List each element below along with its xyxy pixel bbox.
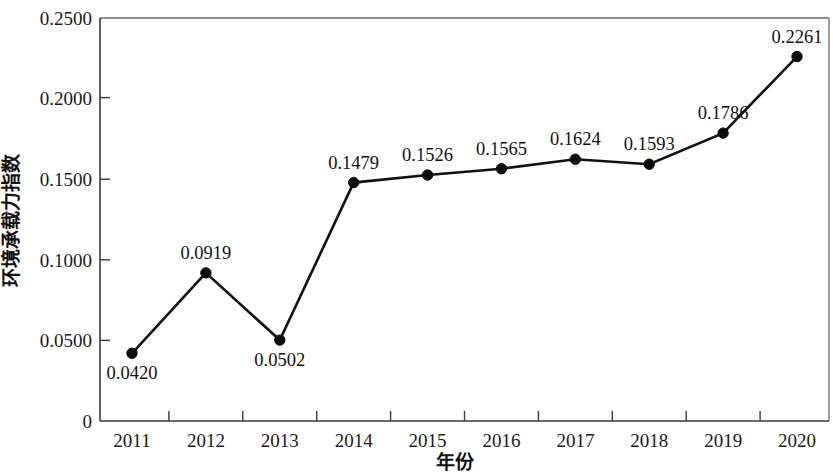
data-point-label: 0.0420 xyxy=(107,363,158,383)
data-point xyxy=(127,348,137,358)
x-tick-label: 2017 xyxy=(556,430,594,451)
data-point-label: 0.1526 xyxy=(402,145,453,165)
x-tick-label: 2019 xyxy=(704,430,742,451)
x-tick-label: 2011 xyxy=(113,430,150,451)
y-tick-label: 0.1000 xyxy=(40,250,92,271)
data-point-label: 0.1786 xyxy=(698,103,749,123)
x-tick-label: 2016 xyxy=(483,430,521,451)
x-tick-label: 2018 xyxy=(630,430,668,451)
data-point xyxy=(201,268,211,278)
x-axis-title: 年份 xyxy=(436,451,475,473)
data-point-label: 0.0502 xyxy=(254,350,305,370)
x-tick-label: 2020 xyxy=(778,430,816,451)
y-tick-label: 0.0500 xyxy=(40,330,92,351)
chart-background xyxy=(0,0,833,475)
y-tick-label: 0.2000 xyxy=(40,88,92,109)
chart-figure: 0.2500 0.2000 0.1500 0.1000 0.0500 0 201… xyxy=(0,0,833,475)
data-point xyxy=(422,170,432,180)
y-tick-label: 0 xyxy=(83,411,93,432)
y-tick-label: 0.2500 xyxy=(40,8,92,29)
x-tick-label: 2012 xyxy=(187,430,225,451)
y-tick-label: 0.1500 xyxy=(40,169,92,190)
x-tick-label: 2015 xyxy=(409,430,447,451)
data-point xyxy=(644,159,654,169)
y-axis-title: 环境承载力指数 xyxy=(0,153,22,287)
x-tick-label: 2014 xyxy=(335,430,374,451)
data-point-label: 0.1479 xyxy=(328,153,379,173)
data-point-label: 0.1593 xyxy=(624,134,675,154)
line-chart: 0.2500 0.2000 0.1500 0.1000 0.0500 0 201… xyxy=(0,0,833,475)
data-point xyxy=(792,51,802,61)
data-point xyxy=(348,177,358,187)
data-point-label: 0.0919 xyxy=(180,243,231,263)
data-point xyxy=(275,335,285,345)
data-point xyxy=(718,128,728,138)
data-point-label: 0.1624 xyxy=(550,129,601,149)
data-point xyxy=(570,154,580,164)
data-point-label: 0.1565 xyxy=(476,139,527,159)
data-point xyxy=(496,164,506,174)
x-tick-label: 2013 xyxy=(261,430,299,451)
data-point-label: 0.2261 xyxy=(772,27,823,47)
